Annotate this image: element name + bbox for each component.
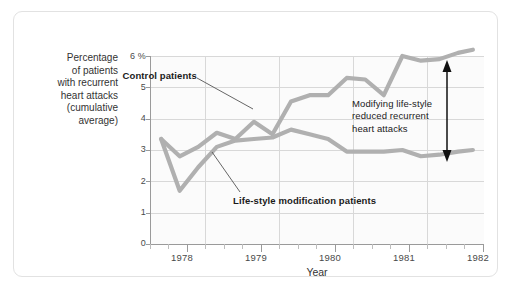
x-tick-minor	[464, 244, 465, 249]
y-axis-title-line: (cumulative	[26, 102, 118, 115]
lifestyle-leader-line	[212, 152, 240, 192]
y-axis-title-line: Percentage	[26, 52, 118, 65]
x-tick-minor	[427, 244, 428, 249]
x-tick-minor	[298, 244, 299, 249]
annotation-effect-line: Modifying life-style	[352, 98, 432, 110]
x-axis-line	[150, 244, 484, 245]
y-axis-title-line: with recurrent	[26, 77, 118, 90]
annotation-effect-line: reduced recurrent	[352, 110, 432, 122]
annotation-leader-layer	[150, 56, 484, 244]
x-tick-label-1978: 1978	[162, 252, 202, 263]
y-tick-label-6: 6 %	[130, 51, 146, 61]
y-tick-label-3: 3	[141, 144, 146, 154]
x-tick-major-1981	[409, 244, 410, 252]
x-tick-minor	[279, 244, 280, 249]
chart-screenshot: Percentage of patients with recurrent he…	[0, 0, 511, 290]
x-tick-minor	[372, 244, 373, 249]
y-tick-label-1: 1	[141, 207, 146, 217]
y-axis-title-line: average)	[26, 115, 118, 128]
y-axis-title-line: heart attacks	[26, 90, 118, 103]
x-tick-label-1982: 1982	[458, 252, 498, 263]
x-tick-major-1980	[335, 244, 336, 252]
x-tick-major-1978	[187, 244, 188, 252]
x-tick-label-1980: 1980	[310, 252, 350, 263]
x-axis-title: Year	[282, 266, 352, 278]
x-tick-major-1982	[483, 244, 484, 252]
x-tick-minor	[224, 244, 225, 249]
x-tick-label-1979: 1979	[236, 252, 276, 263]
x-tick-minor	[390, 244, 391, 249]
x-tick-major-1979	[261, 244, 262, 252]
plot-area: Control patients Life-style modification…	[150, 56, 484, 244]
x-tick-minor	[446, 244, 447, 249]
x-tick-minor	[205, 244, 206, 249]
y-tick-label-4: 4	[141, 113, 146, 123]
annotation-effect-callout: Modifying life-style reduced recurrent h…	[352, 98, 432, 135]
annotation-effect-line: heart attacks	[352, 123, 432, 135]
y-axis-title-line: of patients	[26, 65, 118, 78]
x-tick-minor	[316, 244, 317, 249]
chart-card: Percentage of patients with recurrent he…	[13, 11, 498, 277]
x-tick-minor	[242, 244, 243, 249]
x-tick-minor	[353, 244, 354, 249]
annotation-control-patients: Control patients	[123, 70, 197, 81]
effect-double-arrow	[443, 60, 452, 162]
control-leader-line	[197, 78, 253, 109]
x-tick-label-1981: 1981	[384, 252, 424, 263]
x-tick-minor	[168, 244, 169, 249]
x-tick-minor	[150, 244, 151, 249]
y-axis-title: Percentage of patients with recurrent he…	[26, 52, 118, 128]
annotation-lifestyle-patients: Life-style modification patients	[233, 195, 376, 206]
y-tick-label-group: 0 1 2 3 4 5 6 %	[118, 56, 146, 244]
y-tick-label-0: 0	[141, 238, 146, 248]
